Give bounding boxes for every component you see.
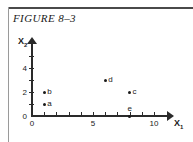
y-axis-tick (29, 92, 34, 93)
data-point (104, 79, 107, 82)
data-point (43, 103, 46, 106)
x-axis-tick-label: 5 (85, 119, 101, 128)
x-axis-tick (69, 112, 70, 117)
x-axis-arrow-icon (167, 111, 174, 121)
y-axis-tick-label: 0 (15, 112, 27, 121)
y-axis-arrow-icon (27, 37, 37, 44)
x-axis-tick (93, 112, 94, 117)
y-axis-tick (29, 104, 34, 105)
scatter-plot: X1 X2 0510024abcde (0, 0, 193, 142)
data-point-label: b (47, 87, 51, 96)
y-axis-tick (29, 56, 34, 57)
y-axis-tick (29, 80, 34, 81)
data-point-label: d (108, 75, 112, 84)
data-point (128, 115, 131, 118)
y-axis-tick-label: 2 (15, 88, 27, 97)
x-axis-tick (117, 112, 118, 117)
y-axis-tick-label: 4 (15, 64, 27, 73)
x-axis-tick (81, 112, 82, 117)
figure-page: FIGURE 8–3 X1 X2 0510024abcde (0, 0, 193, 142)
x-axis-line (32, 115, 169, 117)
data-point (43, 91, 46, 94)
x-axis-label-subscript: 1 (180, 124, 183, 130)
x-axis-tick (32, 112, 33, 117)
x-axis-tick (44, 112, 45, 117)
data-point-label: e (128, 104, 132, 113)
x-axis-tick (142, 112, 143, 117)
x-axis-label: X1 (174, 118, 183, 130)
data-point-label: a (47, 99, 51, 108)
x-axis-tick-label: 10 (146, 119, 162, 128)
x-axis-tick (56, 112, 57, 117)
y-axis-label: X2 (18, 36, 27, 48)
data-point-label: c (133, 87, 137, 96)
data-point (128, 91, 131, 94)
y-axis-tick (29, 68, 34, 69)
y-axis-label-subscript: 2 (24, 42, 27, 48)
x-axis-tick (105, 112, 106, 117)
x-axis-tick (154, 112, 155, 117)
